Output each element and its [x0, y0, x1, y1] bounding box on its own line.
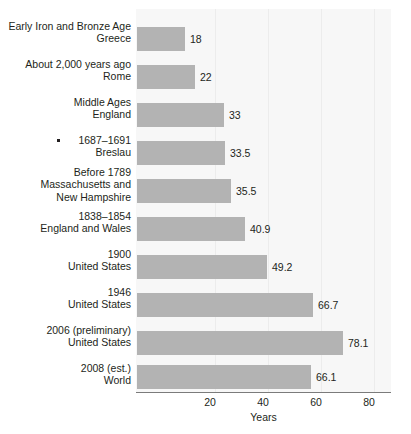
category-label: 2006 (preliminary) United States: [3, 324, 131, 349]
chart-row: About 2,000 years ago Rome 22: [0, 58, 411, 96]
category-label: 1900 United States: [3, 248, 131, 273]
chart-row: Before 1789 Massachusetts and New Hampsh…: [0, 172, 411, 210]
chart-row: Early Iron and Bronze Age Greece 18: [0, 20, 411, 58]
bar: [137, 293, 313, 317]
bar-value-label: 18: [190, 27, 202, 51]
bar-chart: Early Iron and Bronze Age Greece 18 Abou…: [0, 0, 411, 434]
category-label: 1946 United States: [3, 286, 131, 311]
bar: [137, 331, 343, 355]
chart-row: 2006 (preliminary) United States 78.1: [0, 324, 411, 362]
chart-row: 1838–1854 England and Wales 40.9: [0, 210, 411, 248]
bar-value-label: 33.5: [230, 141, 250, 165]
category-label: Before 1789 Massachusetts and New Hampsh…: [3, 166, 131, 203]
category-label: 1838–1854 England and Wales: [3, 210, 131, 235]
bar: [137, 179, 231, 203]
category-label: Early Iron and Bronze Age Greece: [3, 20, 131, 45]
bar-value-label: 66.1: [316, 365, 336, 389]
category-label: Middle Ages England: [3, 96, 131, 121]
bar-value-label: 49.2: [272, 255, 292, 279]
x-tick-label: 60: [296, 396, 336, 409]
bar: [137, 65, 195, 89]
chart-row: 2008 (est.) World 66.1: [0, 362, 411, 400]
bar: [137, 255, 267, 279]
bar-value-label: 78.1: [348, 331, 368, 355]
category-label: About 2,000 years ago Rome: [3, 58, 131, 83]
category-label: 1687–1691 Breslau: [3, 134, 131, 159]
bar-value-label: 66.7: [318, 293, 338, 317]
bar: [137, 103, 224, 127]
x-tick-label: 80: [349, 396, 389, 409]
x-tick-label: 40: [243, 396, 283, 409]
category-label: 2008 (est.) World: [3, 362, 131, 387]
chart-row: 1946 United States 66.7: [0, 286, 411, 324]
x-tick-label: 20: [190, 396, 230, 409]
chart-row: Middle Ages England 33: [0, 96, 411, 134]
bar-value-label: 40.9: [250, 217, 270, 241]
x-axis-title: Years: [136, 411, 391, 424]
bar-value-label: 35.5: [236, 179, 256, 203]
bar-value-label: 22: [200, 65, 212, 89]
bar: [137, 217, 245, 241]
chart-row: 1900 United States 49.2: [0, 248, 411, 286]
bar: [137, 365, 311, 389]
bar-value-label: 33: [229, 103, 241, 127]
bar: [137, 27, 185, 51]
bar: [137, 141, 225, 165]
